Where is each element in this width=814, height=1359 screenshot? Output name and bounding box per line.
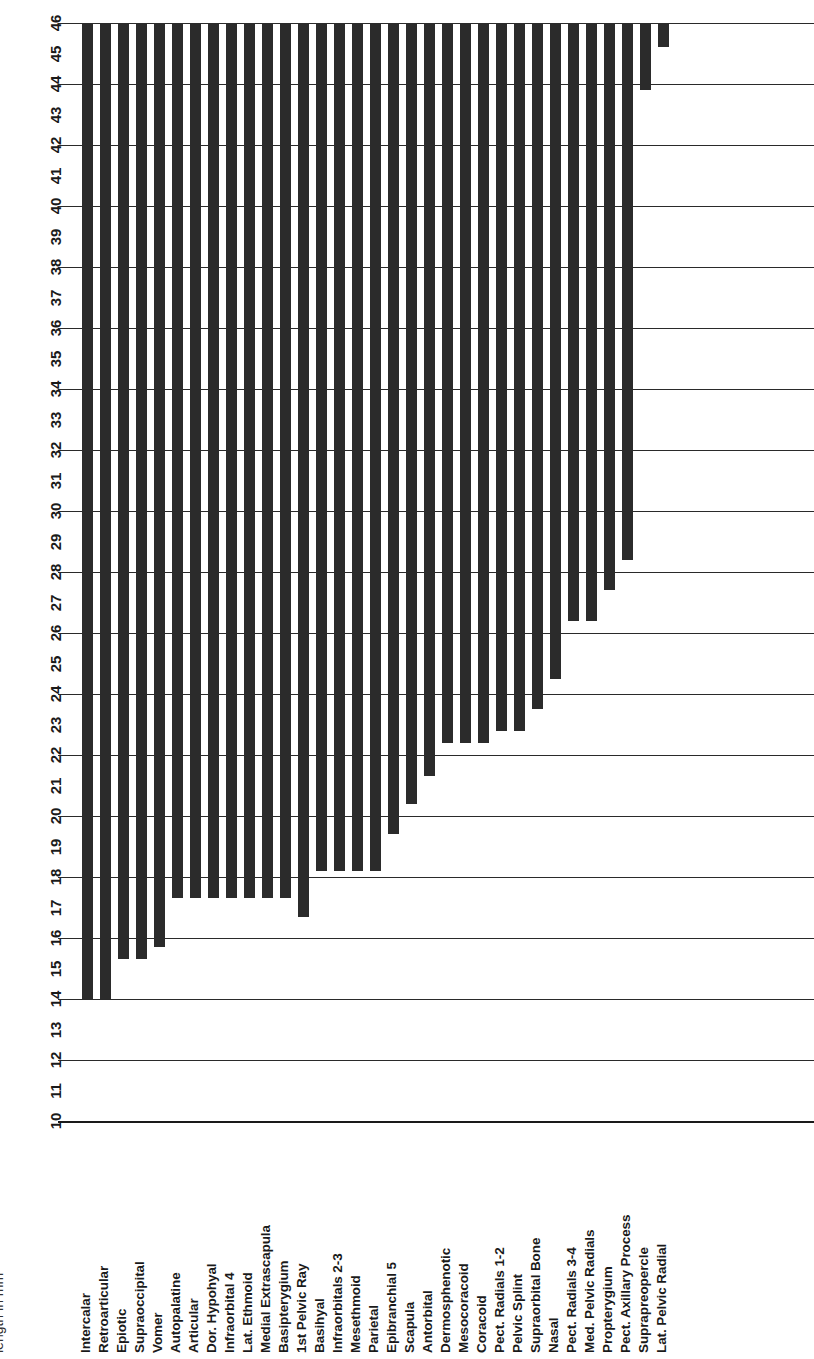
category-label-med-pelvic-radials: Med. Pelvic Radials	[583, 1230, 597, 1353]
category-label-intercalar: Intercalar	[79, 1293, 93, 1353]
bar-series	[58, 0, 814, 1160]
category-label-pect-radials-3-4: Pect. Radials 3-4	[565, 1247, 579, 1353]
category-label-coracoid: Coracoid	[475, 1295, 489, 1353]
bar-dermosphenotic	[442, 23, 453, 743]
bar-nasal	[550, 23, 561, 679]
category-label-epibranchial-5: Epibranchial 5	[385, 1262, 399, 1353]
bar-basihyal	[316, 23, 327, 871]
axis-title-length-in-mm: length in mm	[0, 1273, 6, 1353]
bar-1st-pelvic-ray	[298, 23, 309, 917]
category-label-supraoccipital: Supraoccipital	[133, 1261, 147, 1353]
category-label-1st-pelvic-ray: 1st Pelvic Ray	[295, 1264, 309, 1353]
category-label-medial-extrascapula: Medial Extrascapula	[259, 1225, 273, 1353]
category-label-pect-radials-1-2: Pect. Radials 1-2	[493, 1247, 507, 1353]
bar-dor-hypohyal	[208, 23, 219, 898]
bar-epiotic	[118, 23, 129, 959]
bar-retroarticular	[100, 23, 111, 999]
bar-autopalatine	[172, 23, 183, 898]
category-label-pelvic-splint: Pelvic Splint	[511, 1274, 525, 1353]
bar-parietal	[370, 23, 381, 871]
category-label-articular: Articular	[187, 1298, 201, 1353]
bar-med-pelvic-radials	[586, 23, 597, 621]
bar-supraorbital-bone	[532, 23, 543, 709]
category-axis: IntercalarRetroarticularEpioticSupraocci…	[58, 1160, 814, 1359]
bar-suprapreopercle	[640, 23, 651, 90]
category-label-autopalatine: Autopalatine	[169, 1272, 183, 1353]
bar-chart: 1011121314151617181920212223242526272829…	[0, 0, 814, 1359]
bar-coracoid	[478, 23, 489, 743]
bar-basipterygium	[280, 23, 291, 898]
category-label-suprapreopercle: Suprapreopercle	[637, 1247, 651, 1353]
bar-pelvic-splint	[514, 23, 525, 731]
category-label-vomer: Vomer	[151, 1312, 165, 1353]
category-label-retroarticular: Retroarticular	[97, 1266, 111, 1353]
category-label-mesethmoid: Mesethmoid	[349, 1275, 363, 1353]
category-label-basihyal: Basihyal	[313, 1298, 327, 1353]
bar-epibranchial-5	[388, 23, 399, 834]
category-label-dor-hypohyal: Dor. Hypohyal	[205, 1264, 219, 1353]
category-label-mesocoracoid: Mesocoracoid	[457, 1263, 471, 1353]
category-label-propterygium: Propterygium	[601, 1266, 615, 1353]
category-label-basipterygium: Basipterygium	[277, 1261, 291, 1353]
bar-pect-radials-1-2	[496, 23, 507, 731]
bar-antorbital	[424, 23, 435, 776]
bar-mesocoracoid	[460, 23, 471, 743]
category-label-parietal: Parietal	[367, 1305, 381, 1353]
value-axis: 1011121314151617181920212223242526272829…	[0, 0, 58, 1160]
bar-scapula	[406, 23, 417, 804]
category-label-lat-pelvic-radial: Lat. Pelvic Radial	[655, 1244, 669, 1353]
bar-lat-pelvic-radial	[658, 23, 669, 47]
plot-area	[58, 0, 814, 1160]
bar-pect-radials-3-4	[568, 23, 579, 621]
category-label-pect-axillary-process: Pect. Axillary Process	[619, 1215, 633, 1353]
category-label-infraorbitals-2-3: Infraorbitals 2-3	[331, 1253, 345, 1353]
bar-articular	[190, 23, 201, 898]
category-label-dermosphenotic: Dermosphenotic	[439, 1248, 453, 1353]
bar-medial-extrascapula	[262, 23, 273, 898]
bar-supraoccipital	[136, 23, 147, 959]
bar-lat-ethmoid	[244, 23, 255, 898]
bar-infraorbitals-2-3	[334, 23, 345, 871]
bar-vomer	[154, 23, 165, 947]
category-label-nasal: Nasal	[547, 1317, 561, 1353]
bar-pect-axillary-process	[622, 23, 633, 560]
category-label-epiotic: Epiotic	[115, 1309, 129, 1353]
bar-intercalar	[82, 23, 93, 999]
category-label-lat-ethmoid: Lat. Ethmoid	[241, 1272, 255, 1353]
category-label-supraorbital-bone: Supraorbital Bone	[529, 1238, 543, 1353]
category-label-scapula: Scapula	[403, 1302, 417, 1353]
category-label-infraorbital-4: Infraorbital 4	[223, 1273, 237, 1353]
bar-propterygium	[604, 23, 615, 590]
bar-mesethmoid	[352, 23, 363, 871]
bar-infraorbital-4	[226, 23, 237, 898]
category-label-antorbital: Antorbital	[421, 1290, 435, 1353]
